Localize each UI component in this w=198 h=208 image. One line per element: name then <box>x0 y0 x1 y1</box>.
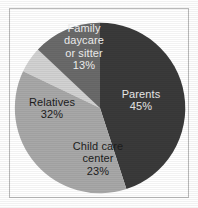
pie-plot-area <box>0 0 198 208</box>
pie-svg <box>0 0 198 208</box>
pie-chart-figure: Family daycare or sitter 13% Parents 45%… <box>0 0 198 208</box>
